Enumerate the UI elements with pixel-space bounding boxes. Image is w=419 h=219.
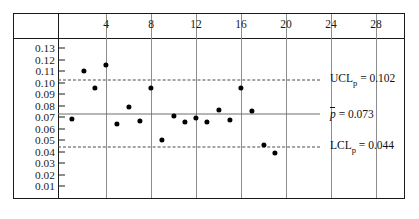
control-limit-line-ucl: [58, 80, 320, 81]
gridline: [106, 14, 107, 198]
y-axis-tick-label: 0.10: [35, 77, 55, 89]
control-limit-line-center: [58, 113, 320, 114]
y-axis-tick-label: 0.08: [35, 100, 55, 112]
data-point: [160, 137, 165, 142]
y-axis-tick-label: 0.09: [35, 88, 55, 100]
y-axis-tick-label: 0.11: [35, 65, 54, 77]
control-limit-label-center: p = 0.073: [330, 108, 374, 120]
control-limit-line-lcl: [58, 146, 320, 147]
y-axis-tick-label: 0.06: [35, 123, 55, 135]
control-chart: 0.130.120.110.100.090.080.070.060.050.04…: [0, 0, 419, 219]
gridline: [241, 14, 242, 198]
gridline: [286, 14, 287, 198]
x-axis-tick-label: 4: [103, 18, 109, 30]
control-limit-value: = 0.073: [336, 108, 374, 120]
x-axis-tick-label: 16: [235, 18, 247, 30]
y-axis-tick-label: 0.13: [35, 42, 55, 54]
data-point: [103, 62, 108, 67]
y-axis-tick-label: 0.12: [35, 54, 55, 66]
y-axis-tick-label: 0.05: [35, 134, 55, 146]
data-point: [216, 108, 221, 113]
x-axis-tick-label: 20: [280, 18, 292, 30]
data-point: [81, 68, 86, 73]
data-point: [148, 85, 153, 90]
y-axis-tick-label: 0.02: [35, 169, 55, 181]
data-point: [205, 119, 210, 124]
control-limit-label-ucl: UCLp = 0.102: [330, 73, 395, 88]
control-limit-label-lcl: LCLp = 0.044: [330, 139, 394, 154]
gridline: [151, 14, 152, 198]
data-point: [115, 121, 120, 126]
data-point: [182, 120, 187, 125]
y-axis-tick-label: 0.03: [35, 157, 55, 169]
x-axis-header-band: [14, 14, 404, 39]
data-point: [238, 85, 243, 90]
y-axis-tick-label: 0.07: [35, 111, 55, 123]
control-limit-value: = 0.102: [357, 73, 395, 85]
y-axis-tick-label: 0.01: [35, 180, 55, 192]
gridline: [376, 14, 377, 198]
control-limit-name: LCL: [330, 139, 352, 151]
data-point: [92, 85, 97, 90]
data-point: [126, 105, 131, 110]
plot-area: 481216202428 UCLp = 0.102p = 0.073LCLp =…: [58, 39, 404, 198]
x-axis-tick-label: 8: [148, 18, 154, 30]
x-axis-tick-label: 12: [190, 18, 202, 30]
data-point: [227, 117, 232, 122]
y-axis-tick-label: 0.04: [35, 146, 55, 158]
data-point: [137, 118, 142, 123]
chart-frame: 0.130.120.110.100.090.080.070.060.050.04…: [13, 13, 405, 199]
gridline: [196, 14, 197, 198]
data-point: [272, 150, 277, 155]
control-limit-name: UCL: [330, 73, 353, 85]
data-point: [171, 113, 176, 118]
control-limit-value: = 0.044: [356, 139, 394, 151]
x-axis-tick-label: 24: [325, 18, 337, 30]
data-point: [70, 117, 75, 122]
p-bar-symbol: p: [330, 108, 336, 120]
data-point: [193, 115, 198, 120]
x-axis-tick-label: 28: [370, 18, 382, 30]
